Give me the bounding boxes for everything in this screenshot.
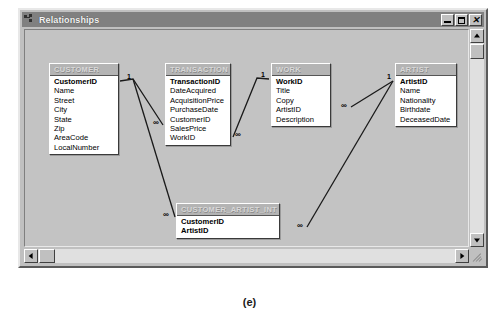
entity-field[interactable]: CustomerID — [177, 217, 279, 226]
entity-title[interactable]: CUSTOMER — [50, 64, 118, 76]
horizontal-scroll-thumb[interactable] — [39, 249, 55, 263]
entity-field[interactable]: DateAcquired — [166, 86, 230, 95]
cardinality-many-work-artist: ∞ — [341, 102, 346, 110]
entity-field-list: CustomerIDNameStreetCityStateZipAreaCode… — [50, 76, 118, 154]
entity-field[interactable]: CustomerID — [50, 77, 118, 86]
entity-field-list: WorkIDTitleCopyArtistIDDescription — [272, 76, 330, 126]
entity-title[interactable]: TRANSACTION — [166, 64, 230, 76]
entity-field[interactable]: WorkID — [272, 77, 330, 86]
cardinality-many-artist-intersection: ∞ — [297, 222, 302, 230]
entity-artist[interactable]: ARTISTArtistIDNameNationalityBirthdateDe… — [395, 63, 457, 127]
entity-title[interactable]: CUSTOMER_ARTIST_INT — [177, 204, 279, 216]
entity-field-list: ArtistIDNameNationalityBirthdateDeceased… — [396, 76, 456, 126]
vertical-scrollbar[interactable] — [470, 29, 484, 247]
scroll-up-button[interactable] — [470, 29, 484, 43]
entity-work[interactable]: WORKWorkIDTitleCopyArtistIDDescription — [271, 63, 331, 127]
resize-grip[interactable] — [470, 249, 484, 263]
cardinality-one-transaction-work: 1 — [261, 71, 265, 78]
close-button[interactable]: ✕ — [469, 14, 482, 26]
relationships-icon — [24, 14, 36, 25]
entity-transaction[interactable]: TRANSACTIONTransactionIDDateAcquiredAcqu… — [165, 63, 231, 146]
relationships-canvas[interactable]: CUSTOMERCustomerIDNameStreetCityStateZip… — [24, 29, 469, 247]
window-title: Relationships — [39, 15, 99, 25]
relationship-line-transaction-work[interactable] — [233, 78, 269, 137]
window-controls: ✕ — [441, 14, 482, 26]
entity-field[interactable]: Street — [50, 96, 118, 105]
entity-field[interactable]: ArtistID — [396, 77, 456, 86]
cardinality-many-customer-transaction: ∞ — [153, 119, 158, 127]
scroll-right-button[interactable] — [455, 249, 469, 263]
entity-field[interactable]: SalesPrice — [166, 124, 230, 133]
relationship-line-work-artist[interactable] — [351, 81, 393, 107]
vertical-scroll-thumb[interactable] — [470, 44, 484, 59]
entity-field[interactable]: Nationality — [396, 96, 456, 105]
entity-field[interactable]: WorkID — [166, 133, 230, 142]
entity-field[interactable]: Name — [396, 86, 456, 95]
minimize-button[interactable] — [441, 14, 454, 26]
horizontal-scrollbar[interactable] — [24, 249, 469, 263]
entity-title[interactable]: ARTIST — [396, 64, 456, 76]
entity-field[interactable]: Description — [272, 115, 330, 124]
entity-field[interactable]: State — [50, 115, 118, 124]
entity-field[interactable]: AcquisitionPrice — [166, 96, 230, 105]
entity-field-list: CustomerIDArtistID — [177, 216, 279, 238]
cardinality-many-customer-intersection: ∞ — [163, 211, 168, 219]
cardinality-many-transaction-work: ∞ — [235, 131, 240, 139]
scroll-down-button[interactable] — [470, 233, 484, 247]
entity-field[interactable]: ArtistID — [177, 226, 279, 235]
entity-title[interactable]: WORK — [272, 64, 330, 76]
entity-field[interactable]: AreaCode — [50, 133, 118, 142]
figure-caption: (e) — [0, 296, 499, 308]
entity-field[interactable]: DeceasedDate — [396, 115, 456, 124]
window-titlebar[interactable]: Relationships ✕ — [22, 12, 484, 27]
entity-field[interactable]: City — [50, 105, 118, 114]
entity-field[interactable]: TransactionID — [166, 77, 230, 86]
entity-field[interactable]: ArtistID — [272, 105, 330, 114]
cardinality-one-customer-transaction: 1 — [127, 73, 131, 80]
entity-field-list: TransactionIDDateAcquiredAcquisitionPric… — [166, 76, 230, 145]
entity-field[interactable]: Title — [272, 86, 330, 95]
entity-field[interactable]: CustomerID — [166, 115, 230, 124]
entity-field[interactable]: LocalNumber — [50, 143, 118, 152]
entity-customer_artist_int[interactable]: CUSTOMER_ARTIST_INTCustomerIDArtistID — [176, 203, 280, 239]
relationships-window: Relationships ✕ CUSTOMERCustomerIDNameSt… — [18, 8, 488, 268]
cardinality-one-work-artist: 1 — [387, 73, 391, 80]
entity-field[interactable]: Name — [50, 86, 118, 95]
entity-field[interactable]: Zip — [50, 124, 118, 133]
entity-field[interactable]: PurchaseDate — [166, 105, 230, 114]
entity-field[interactable]: Birthdate — [396, 105, 456, 114]
scroll-left-button[interactable] — [24, 249, 38, 263]
entity-customer[interactable]: CUSTOMERCustomerIDNameStreetCityStateZip… — [49, 63, 119, 155]
maximize-button[interactable] — [455, 14, 468, 26]
entity-field[interactable]: Copy — [272, 96, 330, 105]
